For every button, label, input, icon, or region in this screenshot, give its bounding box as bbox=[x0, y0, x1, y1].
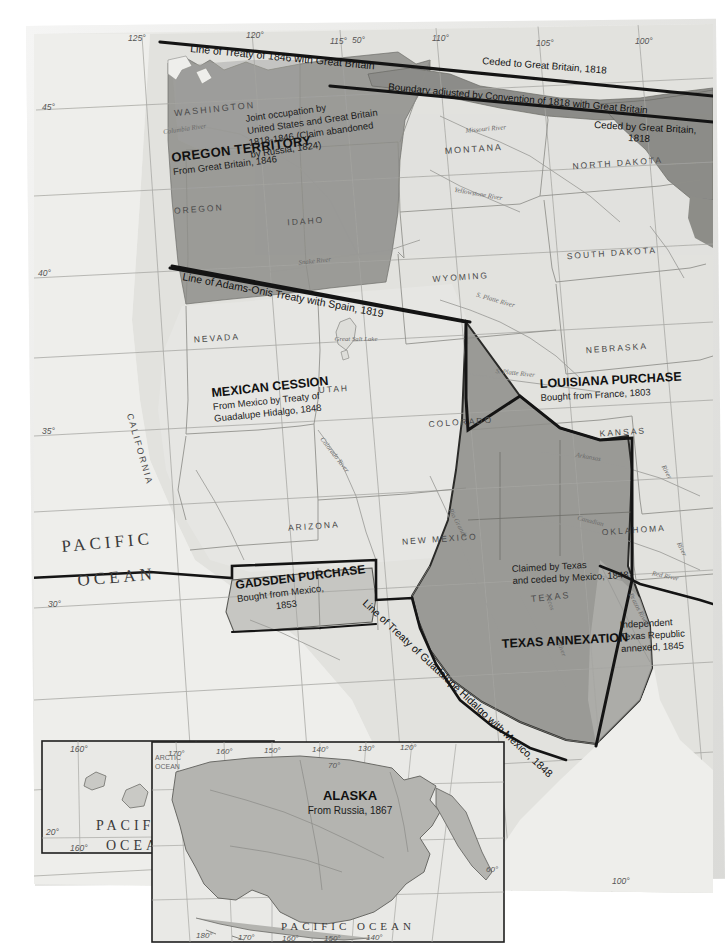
hawaii-grid-160-bottom: 160° bbox=[70, 843, 88, 853]
grid-label-8: 40° bbox=[38, 268, 51, 278]
alaska-grid-140: 140° bbox=[312, 745, 329, 754]
grid-label-9: 35° bbox=[42, 426, 55, 436]
alaska-grid-60: 60° bbox=[486, 865, 499, 874]
grid-label-3: 50° bbox=[352, 35, 365, 45]
alaska-grid-140-bottom: 140° bbox=[366, 933, 383, 942]
annotation-ceded-by-gb-1818-line2: 1818 bbox=[628, 132, 651, 144]
grid-label-1: 120° bbox=[246, 30, 264, 40]
alaska-grid-150: 150° bbox=[264, 746, 281, 755]
alaska-grid-180-bottom: 180° bbox=[196, 931, 213, 940]
label-alaska-subtitle: From Russia, 1867 bbox=[308, 805, 393, 816]
label-alaska-arctic-line1: ARCTIC bbox=[155, 754, 181, 761]
label-alaska-arctic-line2: OCEAN bbox=[155, 763, 180, 770]
hawaii-grid-20-left: 20° bbox=[45, 827, 59, 837]
alaska-grid-150-bottom: 150° bbox=[324, 934, 341, 943]
grid-label-10: 30° bbox=[48, 599, 61, 609]
alaska-grid-130: 130° bbox=[358, 744, 375, 753]
label-alaska-pacific-ocean: PACIFIC OCEAN bbox=[281, 920, 415, 932]
alaska-grid-120: 120° bbox=[400, 743, 417, 752]
alaska-grid-170-bottom: 170° bbox=[238, 933, 255, 942]
grid-label-5: 105° bbox=[536, 38, 554, 48]
grid-label-6: 100° bbox=[635, 36, 653, 46]
alaska-grid-160-bottom: 160° bbox=[282, 934, 299, 943]
grid-label-2: 115° bbox=[330, 36, 348, 46]
grid-label-0: 125° bbox=[128, 33, 146, 43]
label-alaska-title: ALASKA bbox=[323, 788, 378, 803]
hawaii-grid-160-top: 160° bbox=[70, 744, 88, 754]
alaska-grid-160: 160° bbox=[216, 747, 233, 756]
label-state-utah: UTAH bbox=[318, 383, 349, 395]
label-river-great-salt-lake: Great Salt Lake bbox=[335, 335, 378, 342]
alaska-grid-70: 70° bbox=[328, 761, 341, 770]
grid-label-4: 110° bbox=[432, 33, 450, 43]
grid-label-11: 100° bbox=[612, 876, 630, 886]
inset-alaska: 170° 160° 150° 140° 130° 120° 70° 60° 18… bbox=[152, 742, 504, 943]
grid-label-7: 45° bbox=[42, 102, 55, 112]
